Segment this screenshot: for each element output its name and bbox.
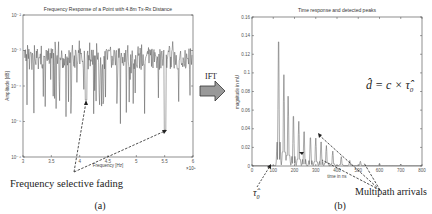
svg-text:300: 300 xyxy=(312,168,320,173)
multipath-arrows xyxy=(319,135,380,190)
svg-text:0.08: 0.08 xyxy=(241,89,250,94)
caption-b: (b) xyxy=(334,200,346,212)
fading-annotation: Frequency selective fading xyxy=(10,178,124,189)
figure: Frequency Response of a Point with 4.8m … xyxy=(0,0,432,214)
svg-text:d̂ = c × τ̂0: d̂ = c × τ̂0 xyxy=(366,78,415,94)
svg-text:10⁻⁶: 10⁻⁶ xyxy=(11,155,21,160)
svg-text:0.06: 0.06 xyxy=(241,108,250,113)
arrowhead-icon xyxy=(84,100,88,105)
distance-equation: d̂ = c × τ̂0 xyxy=(366,78,415,94)
svg-text:200: 200 xyxy=(291,168,299,173)
svg-text:6: 6 xyxy=(192,159,195,164)
svg-text:0.02: 0.02 xyxy=(241,145,250,150)
svg-text:5.5: 5.5 xyxy=(162,159,169,164)
caption-a: (a) xyxy=(94,200,105,212)
svg-text:10⁻²: 10⁻² xyxy=(11,13,21,18)
svg-text:10⁻⁵: 10⁻⁵ xyxy=(11,119,21,124)
svg-text:800: 800 xyxy=(418,168,426,173)
right-x-label: time in ns xyxy=(327,174,347,179)
right-chart-title: Time response and detected peaks xyxy=(298,7,376,13)
svg-text:3: 3 xyxy=(22,159,25,164)
svg-text:400: 400 xyxy=(333,168,341,173)
ift-label: IFT xyxy=(205,72,217,81)
svg-text:10⁻⁴: 10⁻⁴ xyxy=(11,84,21,89)
tau-arrow xyxy=(257,166,270,187)
right-chart: Time response and detected peaks 0.160.1… xyxy=(235,7,426,179)
left-x-label: Frequency [Hz] xyxy=(93,163,124,168)
svg-text:0.12: 0.12 xyxy=(241,52,250,57)
svg-text:3.5: 3.5 xyxy=(48,159,55,164)
frequency-response-line xyxy=(24,41,192,130)
left-y-label: Amplitude [dB] xyxy=(5,71,10,100)
tau-label: τ̂0 xyxy=(253,187,261,200)
fading-arrows xyxy=(74,102,165,172)
svg-text:0.1: 0.1 xyxy=(244,70,251,75)
svg-text:5: 5 xyxy=(135,159,138,164)
left-x-multiplier: ×10⁹ xyxy=(186,166,196,171)
svg-text:600: 600 xyxy=(376,168,384,173)
svg-text:700: 700 xyxy=(397,168,405,173)
svg-text:10⁻³: 10⁻³ xyxy=(11,48,21,53)
left-plot-frame xyxy=(23,15,193,157)
svg-text:0.04: 0.04 xyxy=(241,126,250,131)
svg-text:0: 0 xyxy=(251,168,254,173)
time-response-line xyxy=(252,42,422,166)
svg-text:0.14: 0.14 xyxy=(241,33,250,38)
left-chart-title: Frequency Response of a Point with 4.8m … xyxy=(44,6,173,12)
svg-text:0.16: 0.16 xyxy=(241,15,250,20)
left-chart: Frequency Response of a Point with 4.8m … xyxy=(5,6,196,171)
right-y-label: magnitude in mU xyxy=(235,75,240,109)
multipath-annotation: Multipath arrivals xyxy=(355,186,427,197)
svg-text:4: 4 xyxy=(78,159,81,164)
ift-arrow-icon xyxy=(200,81,225,101)
arrowhead-icon xyxy=(318,133,322,138)
